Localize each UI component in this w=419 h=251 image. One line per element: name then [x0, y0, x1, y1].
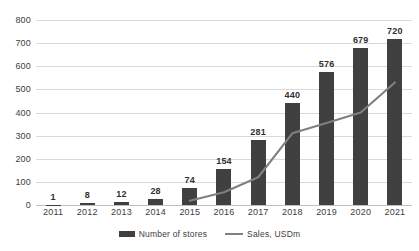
bar-slot: 576: [309, 20, 343, 205]
bar-slot: 74: [173, 20, 207, 205]
bar: [80, 203, 95, 205]
plot-area: 0100200300400500600700800 18122874154281…: [36, 20, 412, 205]
y-tick-label: 0: [26, 200, 31, 210]
bar-value-label: 8: [85, 190, 90, 200]
x-tick-label: 2012: [70, 207, 104, 217]
bar-slot: 1: [36, 20, 70, 205]
y-tick-label: 800: [15, 15, 31, 25]
bar-value-label: 154: [216, 156, 232, 166]
bar-value-label: 12: [116, 189, 126, 199]
legend-item-sales-usdm: Sales, USDm: [225, 229, 300, 239]
bar: [114, 202, 129, 205]
bar: [353, 48, 368, 205]
bar: [319, 72, 334, 205]
bar-value-label: 440: [285, 90, 301, 100]
y-tick-label: 600: [15, 61, 31, 71]
y-tick-label: 100: [15, 177, 31, 187]
x-tick-label: 2021: [378, 207, 412, 217]
bar-value-label: 720: [387, 26, 403, 36]
y-tick-label: 500: [15, 84, 31, 94]
chart-legend: Number of stores Sales, USDm: [0, 229, 419, 239]
bar-slot: 281: [241, 20, 275, 205]
y-tick-label: 400: [15, 108, 31, 118]
bar: [285, 103, 300, 205]
x-tick-label: 2013: [104, 207, 138, 217]
x-tick-label: 2014: [139, 207, 173, 217]
bar: [182, 188, 197, 205]
x-tick-label: 2018: [275, 207, 309, 217]
gridline: [36, 205, 412, 206]
bar: [216, 169, 231, 205]
legend-label-sales-usdm: Sales, USDm: [247, 229, 300, 239]
line-swatch-icon: [225, 233, 243, 235]
bar-slot: 679: [344, 20, 378, 205]
y-tick-label: 200: [15, 154, 31, 164]
y-tick-label: 300: [15, 131, 31, 141]
x-tick-label: 2020: [344, 207, 378, 217]
x-tick-label: 2016: [207, 207, 241, 217]
x-axis-tick-labels: 2011201220132014201520162017201820192020…: [36, 207, 412, 223]
legend-label-number-of-stores: Number of stores: [139, 229, 207, 239]
bar-slot: 12: [104, 20, 138, 205]
bar: [251, 140, 266, 205]
x-tick-label: 2015: [173, 207, 207, 217]
bar-slot: 440: [275, 20, 309, 205]
bar-swatch-icon: [119, 231, 135, 237]
bar-slot: 8: [70, 20, 104, 205]
bar-slot: 154: [207, 20, 241, 205]
bar-value-label: 281: [250, 127, 266, 137]
bar-value-label: 576: [319, 59, 335, 69]
x-tick-label: 2019: [309, 207, 343, 217]
bar-value-label: 679: [353, 35, 369, 45]
bar: [387, 39, 402, 206]
bar-slot: 28: [139, 20, 173, 205]
x-tick-label: 2011: [36, 207, 70, 217]
bar-slot: 720: [378, 20, 412, 205]
bar-value-label: 74: [185, 175, 195, 185]
bar: [148, 199, 163, 205]
combo-chart: 0100200300400500600700800 18122874154281…: [0, 0, 419, 251]
legend-item-number-of-stores: Number of stores: [119, 229, 207, 239]
y-tick-label: 700: [15, 38, 31, 48]
bar-value-label: 28: [150, 186, 160, 196]
bar-value-label: 1: [50, 192, 55, 202]
x-tick-label: 2017: [241, 207, 275, 217]
